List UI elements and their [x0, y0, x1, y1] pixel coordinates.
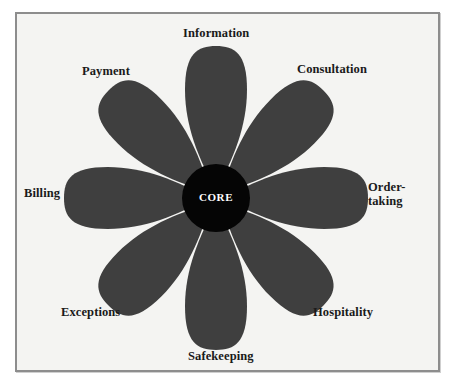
- petal-label-order-taking: Order- taking: [368, 180, 406, 208]
- petal-label-exceptions: Exceptions: [61, 305, 120, 319]
- petal-label-billing: Billing: [24, 186, 60, 200]
- figure-root: CORE Information Consultation Order- tak…: [0, 0, 458, 387]
- petal-label-information: Information: [183, 26, 249, 40]
- petal-label-payment: Payment: [82, 64, 130, 78]
- core-label: CORE: [199, 191, 233, 203]
- petal-label-consultation: Consultation: [297, 62, 367, 76]
- petal-label-hospitality: Hospitality: [313, 305, 373, 319]
- petal-label-safekeeping: Safekeeping: [188, 349, 254, 363]
